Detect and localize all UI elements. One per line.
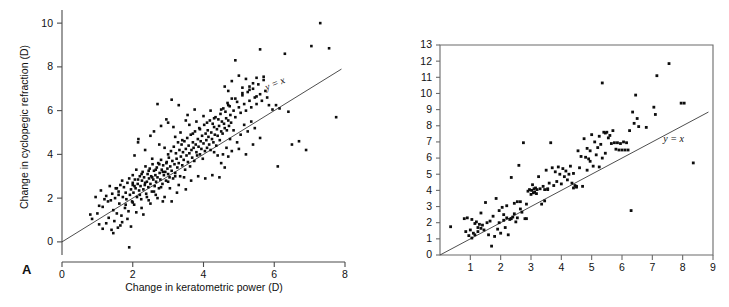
data-point bbox=[470, 218, 473, 221]
data-point bbox=[175, 157, 178, 160]
data-point bbox=[164, 171, 167, 174]
data-point bbox=[133, 154, 136, 157]
data-point bbox=[521, 211, 524, 214]
data-point bbox=[182, 159, 185, 162]
data-point bbox=[185, 154, 188, 157]
data-point bbox=[278, 107, 281, 110]
data-point bbox=[132, 191, 135, 194]
panel-a: 024681002468y = x A Change in keratometr… bbox=[0, 0, 365, 307]
data-point bbox=[259, 93, 262, 96]
data-point bbox=[546, 188, 549, 191]
data-point bbox=[598, 135, 601, 138]
data-point bbox=[610, 142, 613, 145]
data-point bbox=[174, 172, 177, 175]
data-point bbox=[243, 103, 246, 106]
data-point bbox=[213, 117, 216, 120]
data-point bbox=[168, 156, 171, 159]
data-point bbox=[163, 147, 166, 150]
data-point bbox=[335, 116, 338, 119]
data-point bbox=[203, 124, 206, 127]
data-point bbox=[206, 121, 209, 124]
panel-b-ytick-label: 12 bbox=[420, 55, 432, 67]
data-point bbox=[608, 134, 611, 137]
data-point bbox=[505, 204, 508, 207]
panel-a-yaxis-title: Change in cyclopegic refraction (D) bbox=[18, 2, 31, 252]
data-point bbox=[156, 197, 159, 200]
data-point bbox=[243, 124, 246, 127]
panel-a-xtick-label: 4 bbox=[201, 268, 207, 280]
data-point bbox=[475, 220, 478, 223]
panel-b-points bbox=[449, 62, 694, 247]
data-point bbox=[134, 178, 137, 181]
data-point bbox=[144, 149, 147, 152]
data-point bbox=[136, 196, 139, 199]
data-point bbox=[139, 194, 142, 197]
data-point bbox=[536, 188, 539, 191]
panel-b-xtick-label: 4 bbox=[558, 261, 564, 273]
data-point bbox=[181, 164, 184, 167]
data-point bbox=[239, 112, 242, 115]
data-point bbox=[625, 141, 628, 144]
data-point bbox=[616, 141, 619, 144]
data-point bbox=[229, 138, 232, 141]
panel-b-ytick-label: 5 bbox=[426, 168, 432, 180]
data-point bbox=[151, 163, 154, 166]
data-point bbox=[212, 141, 215, 144]
data-point bbox=[149, 202, 152, 205]
data-point bbox=[572, 187, 575, 190]
data-point bbox=[140, 198, 143, 201]
data-point bbox=[551, 166, 554, 169]
data-point bbox=[165, 118, 168, 121]
panel-b-xtick-label: 9 bbox=[710, 261, 716, 273]
data-point bbox=[473, 233, 476, 236]
data-point bbox=[276, 165, 279, 168]
data-point bbox=[598, 166, 601, 169]
data-point bbox=[166, 167, 169, 170]
data-point bbox=[652, 106, 655, 109]
panel-a-points bbox=[89, 22, 337, 249]
data-point bbox=[463, 217, 466, 220]
data-point bbox=[255, 95, 258, 98]
data-point bbox=[577, 149, 580, 152]
data-point bbox=[631, 111, 634, 114]
data-point bbox=[558, 173, 561, 176]
data-point bbox=[255, 103, 258, 106]
data-point bbox=[545, 169, 548, 172]
data-point bbox=[117, 190, 120, 193]
data-point bbox=[478, 223, 481, 226]
data-point bbox=[480, 212, 483, 215]
data-point bbox=[469, 229, 472, 232]
data-point bbox=[223, 166, 226, 169]
data-point bbox=[230, 121, 233, 124]
data-point bbox=[261, 99, 264, 102]
data-point bbox=[158, 143, 161, 146]
data-point bbox=[210, 131, 213, 134]
data-point bbox=[119, 184, 122, 187]
data-point bbox=[206, 129, 209, 132]
data-point bbox=[636, 117, 639, 120]
data-point bbox=[186, 137, 189, 140]
data-point bbox=[167, 121, 170, 124]
data-point bbox=[530, 193, 533, 196]
panel-a-ytick-label: 0 bbox=[47, 235, 53, 247]
data-point bbox=[530, 189, 533, 192]
data-point bbox=[158, 163, 161, 166]
data-point bbox=[107, 217, 110, 220]
data-point bbox=[143, 176, 146, 179]
data-point bbox=[121, 221, 124, 224]
panel-b-plot-frame bbox=[440, 45, 713, 255]
data-point bbox=[499, 232, 502, 235]
data-point bbox=[91, 218, 94, 221]
panel-a-reference-line bbox=[62, 69, 341, 242]
data-point bbox=[680, 102, 683, 105]
data-point bbox=[252, 143, 255, 146]
data-point bbox=[111, 192, 114, 195]
data-point bbox=[549, 141, 552, 144]
data-point bbox=[595, 153, 598, 156]
data-point bbox=[137, 138, 140, 141]
data-point bbox=[190, 179, 193, 182]
data-point bbox=[174, 136, 177, 139]
data-point bbox=[492, 215, 495, 218]
figure-container: 024681002468y = x A Change in keratometr… bbox=[0, 0, 729, 307]
data-point bbox=[195, 151, 198, 154]
